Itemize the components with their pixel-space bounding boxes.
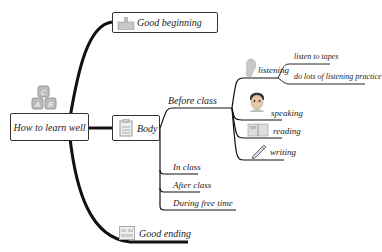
open-book-icon: [247, 123, 269, 141]
abc-blocks-icon: C A B: [31, 85, 57, 113]
ear-icon: [245, 58, 257, 82]
svg-text:A: A: [34, 101, 40, 108]
good-beginning-node[interactable]: Good beginning: [112, 12, 218, 33]
during-free-time-label[interactable]: During free time: [173, 198, 233, 208]
good-beginning-label: Good beginning: [137, 17, 202, 28]
pencil-icon: [250, 141, 268, 163]
speaking-label[interactable]: speaking: [271, 108, 303, 118]
root-label: How to learn well: [14, 122, 86, 133]
svg-text:B: B: [48, 101, 53, 108]
listen-to-tapes-label[interactable]: listen to tapes: [294, 52, 338, 61]
clipboard-icon: [119, 119, 133, 137]
reading-label[interactable]: reading: [273, 126, 301, 136]
root-node[interactable]: How to learn well: [10, 113, 89, 141]
boy-face-icon: [248, 90, 266, 116]
listening-label[interactable]: listening: [258, 65, 289, 75]
good-ending-label[interactable]: Good ending: [139, 228, 191, 239]
thumbs-up-icon: [117, 16, 135, 30]
body-label: Body: [137, 123, 158, 134]
writing-label[interactable]: writing: [270, 147, 296, 157]
document-icon: [119, 226, 135, 244]
after-class-label[interactable]: After class: [173, 180, 211, 190]
body-node[interactable]: Body: [112, 115, 160, 141]
listening-practice-label[interactable]: do lots of listening practice: [294, 72, 382, 81]
before-class-label[interactable]: Before class: [168, 95, 217, 106]
in-class-label[interactable]: In class: [173, 162, 201, 172]
